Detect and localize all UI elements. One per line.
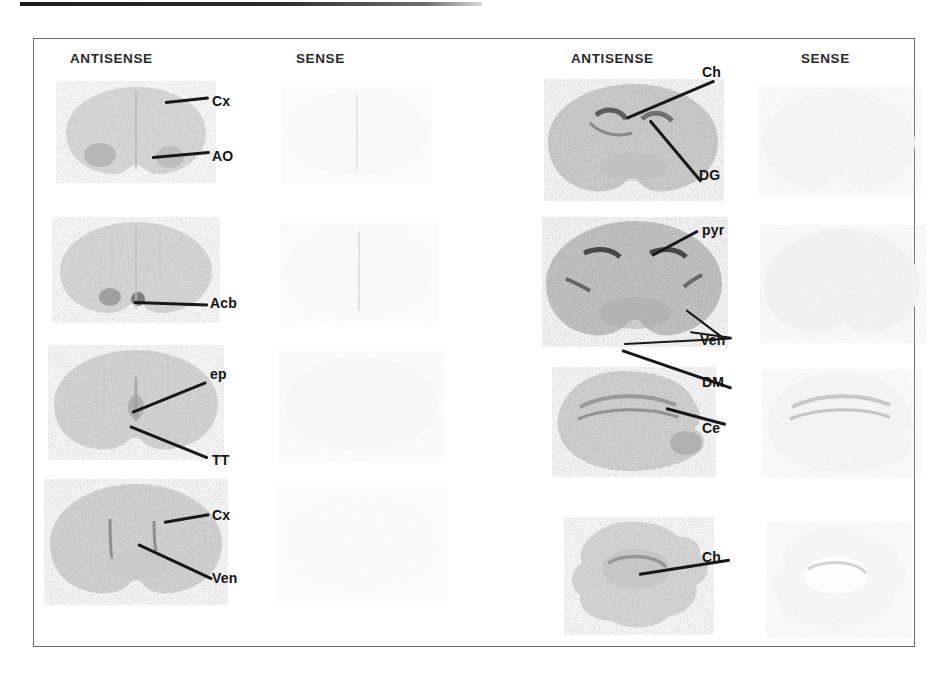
brain-section-left-sense-1 <box>282 85 432 183</box>
annotation-label-ch-2: Ch <box>702 549 721 565</box>
annotation-label-pyr-1: pyr <box>702 222 724 238</box>
column-header-antisense-right: ANTISENSE <box>571 51 654 66</box>
brain-section-right-sense-4 <box>766 523 912 637</box>
column-header-sense-right: SENSE <box>801 51 850 66</box>
annotation-label-dm-1: DM <box>702 374 724 390</box>
brain-section-right-sense-1 <box>759 87 921 195</box>
brain-section-left-antisense-2 <box>52 217 220 327</box>
annotation-label-ep-1: ep <box>210 366 227 382</box>
annotation-label-acb-1: Acb <box>210 295 237 311</box>
brain-section-right-antisense-2 <box>542 217 728 349</box>
brain-section-right-antisense-1 <box>544 79 724 201</box>
brain-section-right-antisense-3 <box>552 367 716 477</box>
brain-section-left-sense-4 <box>276 487 448 603</box>
brain-section-right-sense-2 <box>760 225 926 343</box>
brain-section-right-sense-3 <box>762 369 922 477</box>
annotation-label-dg-1: DG <box>699 167 720 183</box>
brain-section-left-sense-2 <box>280 221 438 325</box>
brain-section-right-antisense-4 <box>564 517 714 635</box>
figure-page: ANTISENSE SENSE ANTISENSE SENSE <box>0 0 950 685</box>
annotation-label-ven-2: Ven <box>700 332 726 348</box>
scan-artifact-bar <box>20 2 482 6</box>
figure-plate: ANTISENSE SENSE ANTISENSE SENSE <box>33 38 915 647</box>
annotation-label-tt-1: TT <box>212 452 230 468</box>
annotation-label-ven-1: Ven <box>212 570 238 586</box>
column-header-antisense-left: ANTISENSE <box>70 51 153 66</box>
annotation-label-ch-1: Ch <box>702 64 721 80</box>
annotation-label-cx-1: Cx <box>212 93 230 109</box>
brain-section-left-sense-3 <box>278 351 444 461</box>
brain-section-left-antisense-3 <box>48 345 224 463</box>
brain-section-left-antisense-4 <box>44 479 228 607</box>
annotation-label-cx-2: Cx <box>212 507 230 523</box>
annotation-label-ce-1: Ce <box>702 420 720 436</box>
brain-section-left-antisense-1 <box>56 81 216 186</box>
column-header-sense-left: SENSE <box>296 51 345 66</box>
annotation-label-ao-1: AO <box>212 148 233 164</box>
